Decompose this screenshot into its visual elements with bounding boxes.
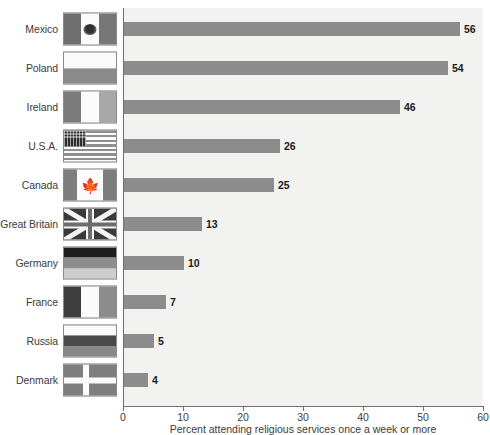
bar-value-label: 26 — [284, 140, 296, 152]
flag-mexico-icon — [63, 13, 117, 46]
flag-usa-icon — [63, 130, 117, 163]
bar — [124, 295, 166, 309]
bar — [124, 22, 460, 36]
bar — [124, 217, 202, 231]
bar-value-label: 4 — [152, 374, 158, 386]
country-label: Great Britain — [0, 218, 58, 230]
bar — [124, 334, 154, 348]
country-label: Russia — [0, 335, 58, 347]
x-axis-title: Percent attending religious services onc… — [123, 423, 483, 435]
bar-value-label: 5 — [158, 335, 164, 347]
bar-value-label: 46 — [404, 101, 416, 113]
country-label: France — [0, 296, 58, 308]
x-axis-tick-label: 10 — [177, 411, 189, 423]
x-axis-tick-label: 0 — [120, 411, 126, 423]
chart-row: Mexico 56 — [0, 11, 490, 47]
flag-great-britain-icon — [63, 208, 117, 241]
maple-leaf-icon: 🍁 — [81, 178, 100, 193]
x-axis-tick-label: 40 — [357, 411, 369, 423]
x-axis-tick-label: 30 — [297, 411, 309, 423]
bar — [124, 61, 448, 75]
country-label: U.S.A. — [0, 140, 58, 152]
flag-russia-icon — [63, 325, 117, 358]
bar — [124, 256, 184, 270]
bar-value-label: 25 — [278, 179, 290, 191]
bar — [124, 139, 280, 153]
flag-denmark-icon — [63, 364, 117, 397]
bar — [124, 100, 400, 114]
bar-value-label: 7 — [170, 296, 176, 308]
country-label: Mexico — [0, 23, 58, 35]
x-axis-tick-label: 20 — [237, 411, 249, 423]
chart-row: Great Britain 13 — [0, 206, 490, 242]
flag-ireland-icon — [63, 91, 117, 124]
country-label: Denmark — [0, 374, 58, 386]
bar-value-label: 10 — [188, 257, 200, 269]
chart-row: France 7 — [0, 284, 490, 320]
bar-value-label: 54 — [452, 62, 464, 74]
flag-germany-icon — [63, 247, 117, 280]
country-label: Ireland — [0, 101, 58, 113]
chart-row: Poland 54 — [0, 50, 490, 86]
country-label: Germany — [0, 257, 58, 269]
chart-row: Ireland 46 — [0, 89, 490, 125]
flag-poland-icon — [63, 52, 117, 85]
chart-row: Denmark 4 — [0, 362, 490, 398]
chart-row: Russia 5 — [0, 323, 490, 359]
country-label: Canada — [0, 179, 58, 191]
flag-france-icon — [63, 286, 117, 319]
chart-row: Germany 10 — [0, 245, 490, 281]
bar — [124, 178, 274, 192]
x-axis-tick-label: 60 — [477, 411, 489, 423]
country-label: Poland — [0, 62, 58, 74]
flag-canada-icon: 🍁 — [63, 169, 117, 202]
x-axis-tick-label: 50 — [417, 411, 429, 423]
bar-value-label: 56 — [464, 23, 476, 35]
chart-row: Canada 🍁 25 — [0, 167, 490, 203]
chart-row: U.S.A. 26 — [0, 128, 490, 164]
bar-value-label: 13 — [206, 218, 218, 230]
bar — [124, 373, 148, 387]
